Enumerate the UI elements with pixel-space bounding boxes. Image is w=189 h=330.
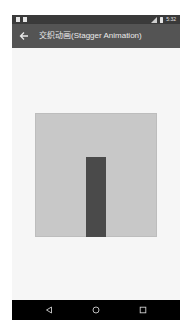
arrow-left-icon [19,31,29,41]
animation-stage [35,113,157,237]
nav-recents-button[interactable] [131,300,155,320]
page-title: 交织动画(Stagger Animation) [39,24,142,48]
phone-screen: 5:32 交织动画(Stagger Animation) [12,15,180,320]
nav-back-button[interactable] [37,300,61,320]
status-notifications [16,17,27,22]
triangle-back-icon [45,306,53,314]
square-recents-icon [139,306,147,314]
content-area [12,48,180,300]
app-bar: 交织动画(Stagger Animation) [12,24,180,48]
status-bar: 5:32 [12,15,180,24]
notification-icon [23,17,27,22]
signal-icon [151,17,157,23]
navigation-bar [12,300,180,320]
battery-icon [160,17,163,23]
circle-home-icon [92,306,100,314]
back-button[interactable] [16,28,32,44]
nav-home-button[interactable] [84,300,108,320]
status-time: 5:32 [166,16,176,23]
status-indicators: 5:32 [151,16,176,23]
animated-bar [86,157,106,237]
notification-icon [16,17,20,22]
